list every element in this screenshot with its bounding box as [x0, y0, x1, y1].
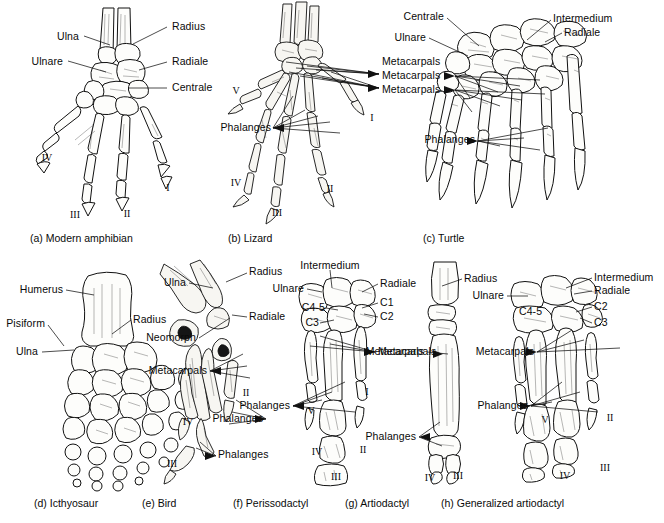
label-c-ulnare: Ulnare	[394, 32, 426, 43]
caption-c: (c) Turtle	[423, 232, 464, 244]
label-f-ulnare: Ulnare	[272, 283, 304, 294]
comparative-anatomy-figure: Ulna Radius Ulnare Radiale Centrale IV I…	[0, 0, 664, 523]
digit-h-iii: III	[600, 463, 610, 473]
digit-h-ii: II	[607, 413, 614, 423]
amphibian-skeleton-drawing	[0, 0, 230, 232]
label-e-phalanges-2: Phalanges	[218, 449, 269, 460]
label-c-intermedium: Intermedium	[553, 13, 612, 24]
digit-e-iii: III	[167, 459, 177, 469]
digit-f-iii: III	[331, 472, 341, 482]
label-d-pisiform: Pisiform	[6, 318, 45, 329]
label-d-radius: Radius	[133, 314, 166, 325]
caption-e: (e) Bird	[142, 497, 176, 509]
caption-a: (a) Modern amphibian	[30, 232, 133, 244]
label-d-humerus: Humerus	[20, 284, 63, 295]
label-f-radiale: Radiale	[380, 278, 416, 289]
label-h-radiale: Radiale	[594, 285, 630, 296]
label-h-radius: Radius	[464, 273, 497, 284]
panel-turtle	[424, 0, 664, 232]
label-g-metacarpals: Metacarpals	[366, 346, 424, 357]
label-f-c1: C1	[380, 297, 394, 308]
label-h-c3: C3	[594, 317, 608, 328]
caption-h: (h) Generalized artiodactyl	[441, 497, 564, 509]
label-e-radiale: Radiale	[249, 311, 285, 322]
label-h-c2: C2	[594, 301, 608, 312]
digit-b-iii: III	[272, 208, 282, 218]
label-a-radiale: Radiale	[172, 56, 208, 67]
digit-a-ii: II	[124, 209, 131, 219]
label-h-phalanges: Phalanges	[477, 400, 528, 411]
digit-e-iv: IV	[183, 417, 194, 427]
turtle-skeleton-drawing	[424, 0, 664, 232]
panel-artiodactyl	[420, 262, 480, 484]
label-b-metacarpals-2: Metacarpals	[382, 84, 440, 95]
digit-f-ii: II	[360, 445, 367, 455]
digit-h-v: V	[541, 415, 548, 425]
label-f-intermedium: Intermedium	[300, 260, 359, 271]
label-h-c45: C4-5	[519, 306, 542, 317]
label-a-ulnare: Ulnare	[31, 56, 63, 67]
panel-modern-amphibian	[0, 0, 230, 232]
label-a-centrale: Centrale	[172, 82, 213, 93]
caption-f: (f) Perissodactyl	[233, 497, 308, 509]
label-c-metacarpals: Metacarpals	[382, 56, 440, 67]
label-c-phalanges: Phalanges	[424, 134, 475, 145]
caption-d: (d) Icthyosaur	[34, 497, 98, 509]
caption-g: (g) Artiodactyl	[345, 497, 409, 509]
digit-b-v: V	[232, 86, 239, 96]
label-a-radius: Radius	[172, 21, 205, 32]
label-b-metacarpals-1: Metacarpals	[382, 70, 440, 81]
label-b-phalanges: Phalanges	[220, 122, 271, 133]
digit-f-i: I	[365, 387, 368, 397]
label-e-metacarpals: Metacarpals	[149, 365, 207, 376]
label-f-c3: C3	[305, 317, 319, 328]
digit-a-i: I	[166, 183, 169, 193]
label-c-radiale: Radiale	[564, 27, 600, 38]
digit-b-ii: II	[327, 184, 334, 194]
label-h-metacarpals: Metacarpals	[476, 346, 534, 357]
label-g-phalanges: Phalanges	[365, 431, 416, 442]
label-d-ulna: Ulna	[16, 346, 38, 357]
digit-a-iii: III	[70, 210, 80, 220]
digit-e-ii: II	[243, 388, 250, 398]
label-h-intermedium: Intermedium	[594, 272, 653, 283]
label-a-ulna: Ulna	[57, 31, 79, 42]
caption-b: (b) Lizard	[228, 232, 272, 244]
label-c-centrale: Centrale	[404, 11, 445, 22]
label-f-c2: C2	[380, 311, 394, 322]
digit-f-iv: IV	[312, 447, 323, 457]
digit-g-iv: IV	[425, 473, 436, 483]
label-f-c45: C4-5	[302, 302, 325, 313]
label-e-radius: Radius	[249, 266, 282, 277]
label-h-ulnare: Ulnare	[472, 290, 504, 301]
digit-h-iv: IV	[560, 471, 571, 481]
label-e-neomorph: Neomorph	[146, 332, 196, 343]
digit-g-iii: III	[453, 471, 463, 481]
digit-b-iv: IV	[231, 178, 242, 188]
digit-b-i: I	[370, 113, 373, 123]
artiodactyl-skeleton-drawing	[420, 262, 480, 484]
digit-a-iv: IV	[42, 153, 53, 163]
digit-f-v: V	[307, 406, 314, 416]
label-e-phalanges-1: Phalanges	[212, 413, 263, 424]
label-e-ulna: Ulna	[164, 277, 186, 288]
label-f-phalanges: Phalanges	[239, 400, 290, 411]
